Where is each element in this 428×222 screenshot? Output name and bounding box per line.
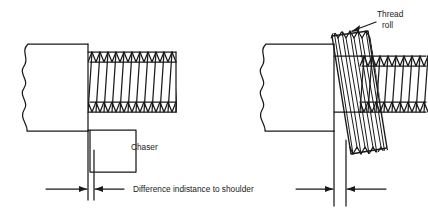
workpiece-body-right: [260, 44, 334, 131]
chaser-tool: [88, 130, 136, 172]
thread-roll-teeth: [331, 31, 389, 154]
thread-teeth-bottom-left: [88, 102, 176, 112]
workpiece-body-left: [22, 44, 88, 131]
arrow-left-icon-right: [347, 186, 355, 192]
arrowheads: [79, 25, 360, 192]
dimension-note-label: Difference indistance to shoulder: [133, 184, 254, 194]
technical-diagram: Chaser Thread roll Difference indistance…: [0, 0, 428, 222]
arrow-left-icon-left: [95, 186, 103, 192]
right-panel-thread-roll: [260, 31, 428, 206]
diagram-canvas: Chaser Thread roll Difference indistance…: [0, 0, 428, 222]
thread-roll-label-line1: Thread: [377, 9, 404, 19]
thread-roll-label-line2: roll: [382, 20, 393, 30]
arrow-right-icon-left: [79, 186, 87, 192]
thread-roll-tool: [331, 31, 389, 154]
chaser-label: Chaser: [131, 142, 158, 152]
arrow-right-icon-right: [325, 186, 333, 192]
thread-flank-lines-left: [88, 52, 180, 112]
leader-arrow-icon: [351, 25, 360, 32]
left-panel-chaser: [22, 44, 180, 200]
thread-teeth-left: [88, 52, 180, 112]
